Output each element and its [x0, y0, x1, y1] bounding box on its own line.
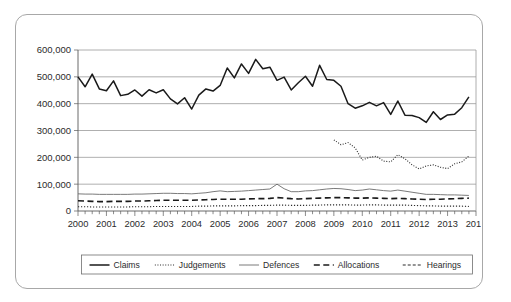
- y-tick-label: 100,000: [37, 179, 71, 190]
- legend-label-hearings[interactable]: Hearings: [427, 260, 461, 270]
- y-tick-label: 400,000: [37, 98, 71, 109]
- x-tick-label: 2002: [125, 219, 146, 229]
- data-series[interactable]: [78, 59, 469, 207]
- legend-label-defences[interactable]: Defences: [263, 260, 299, 270]
- y-tick-label: 500,000: [37, 71, 71, 82]
- legend-label-claims[interactable]: Claims: [114, 260, 140, 270]
- x-tick-label: 2014: [466, 219, 481, 229]
- y-tick-label: 300,000: [37, 125, 71, 136]
- series-line-defences[interactable]: [78, 184, 469, 195]
- x-axis-tick-marks: [78, 211, 476, 216]
- x-tick-label: 2013: [437, 219, 458, 229]
- x-tick-label: 2003: [153, 219, 174, 229]
- x-tick-label: 2005: [210, 219, 231, 229]
- chart-legend[interactable]: ClaimsJudgementsDefencesAllocationsHeari…: [82, 255, 473, 274]
- x-axis-tick-labels: 2000200120022003200420052006200720082009…: [68, 219, 481, 229]
- x-tick-label: 2010: [352, 219, 373, 229]
- legend-label-judgements[interactable]: Judgements: [179, 260, 226, 270]
- x-tick-label: 2001: [96, 219, 117, 229]
- y-tick-label: 0: [66, 205, 71, 216]
- x-tick-label: 2000: [68, 219, 89, 229]
- x-tick-label: 2011: [381, 219, 401, 229]
- series-line-hearings[interactable]: [78, 205, 469, 207]
- line-chart[interactable]: 0100,000200,000300,000400,000500,000600,…: [16, 15, 481, 287]
- y-tick-label: 200,000: [37, 152, 71, 163]
- series-line-judgements[interactable]: [334, 140, 469, 169]
- legend-label-allocations[interactable]: Allocations: [338, 260, 380, 270]
- y-axis-tick-labels: 0100,000200,000300,000400,000500,000600,…: [37, 44, 71, 216]
- y-tick-label: 600,000: [37, 44, 71, 55]
- x-tick-label: 2004: [181, 219, 202, 229]
- x-tick-label: 2009: [324, 219, 345, 229]
- chart-figure-frame: 0100,000200,000300,000400,000500,000600,…: [15, 14, 483, 289]
- series-line-claims[interactable]: [78, 59, 469, 122]
- x-tick-label: 2012: [409, 219, 430, 229]
- x-tick-label: 2008: [295, 219, 316, 229]
- gridlines: [74, 50, 476, 211]
- x-tick-label: 2006: [238, 219, 259, 229]
- x-tick-label: 2007: [267, 219, 288, 229]
- series-line-allocations[interactable]: [78, 198, 469, 202]
